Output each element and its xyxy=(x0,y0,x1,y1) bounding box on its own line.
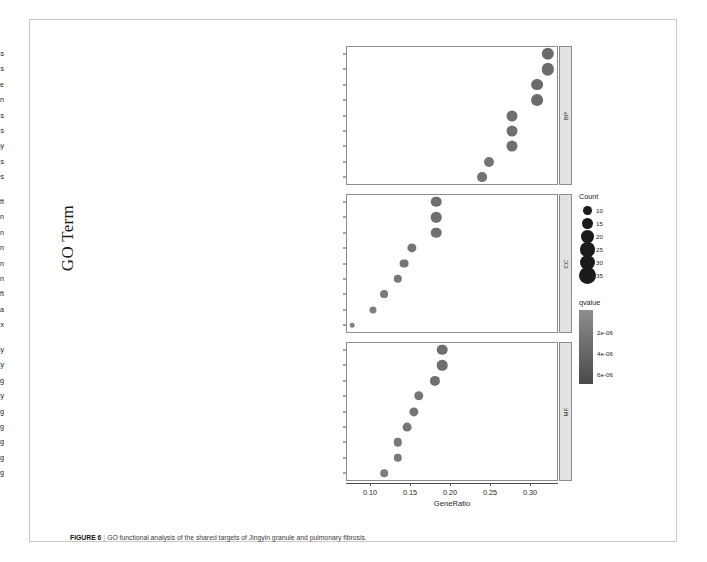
qvalue-legend-tick-label: 6e-06 xyxy=(597,371,613,378)
facet-strip-mf: MF xyxy=(559,342,572,481)
data-point xyxy=(531,79,543,91)
data-point xyxy=(350,323,355,328)
data-point xyxy=(431,227,442,238)
qvalue-gradient-labels: 2e-064e-066e-06 xyxy=(593,310,633,384)
y-axis-tick-label: cytokine receptor binding xyxy=(0,377,4,385)
y-axis-tick-label: caveola xyxy=(0,306,4,314)
y-axis-tick-label: membrane microdomain xyxy=(0,213,4,221)
y-axis-tick-label: cellular response to chemical stress xyxy=(0,50,4,58)
data-point xyxy=(484,157,494,167)
x-axis-tick-mark xyxy=(450,483,451,486)
x-axis-tick-label: 0.30 xyxy=(523,488,537,497)
x-axis-line xyxy=(346,483,558,484)
x-axis-tick-mark xyxy=(410,483,411,486)
y-axis-tick-label: secretory granule lumen xyxy=(0,275,4,283)
facet-strip-cc: CC xyxy=(559,194,572,333)
y-axis-tick-label: ubiquitin-like protein ligase binding xyxy=(0,454,4,462)
figure-frame: GO Term cellular response to chemical st… xyxy=(29,19,677,542)
y-axis-tick-label: RNA polymerase II-specific DNA-binding t… xyxy=(0,438,4,446)
data-point xyxy=(506,110,517,121)
qvalue-gradient-wrap: 2e-064e-066e-06 xyxy=(579,310,633,384)
y-axis-tick-label: signaling receptor activator activity xyxy=(0,361,4,369)
x-axis-tick-label: 0.10 xyxy=(363,488,377,497)
count-legend-title: Count xyxy=(579,192,603,201)
count-legend-label: 15 xyxy=(596,220,603,227)
y-axis-tick-label: membrane region xyxy=(0,229,4,237)
y-axis-tick-label: response to reactive oxygen species xyxy=(0,173,4,181)
data-point xyxy=(506,125,517,136)
y-axis-tick-label: regulation of reactive oxygen species me… xyxy=(0,158,4,166)
y-axis-tick-label: plasma membrane raft xyxy=(0,290,4,298)
caption-text: GO functional analysis of the shared tar… xyxy=(107,534,367,541)
x-axis-tick-label: 0.20 xyxy=(443,488,457,497)
qvalue-legend-tick-label: 4e-06 xyxy=(597,350,613,357)
caption-label: FIGURE 6 xyxy=(70,534,101,541)
count-legend-dot xyxy=(581,230,594,243)
facet-panel-mf xyxy=(346,342,558,481)
y-axis-tick-label: response to lipopolysaccharide xyxy=(0,81,4,89)
count-legend-item: 15 xyxy=(579,217,603,230)
count-legend-dot-cell xyxy=(579,230,596,243)
y-axis-tick-label: cytokine activity xyxy=(0,392,4,400)
data-point xyxy=(437,360,448,371)
data-point xyxy=(506,141,517,152)
data-point xyxy=(370,306,377,313)
count-legend-label: 35 xyxy=(596,272,603,279)
y-axis-tick-label: receptor ligand activity xyxy=(0,346,4,354)
y-axis-tick-label: response to oxidative stress xyxy=(0,65,4,73)
data-point xyxy=(431,212,442,223)
facet-strip-label: CC xyxy=(563,259,569,268)
data-point xyxy=(400,259,409,268)
y-axis-tick-label: membrane raft xyxy=(0,198,4,206)
count-legend-label: 10 xyxy=(596,207,603,214)
data-point xyxy=(531,94,543,106)
count-legend-label: 30 xyxy=(596,259,603,266)
count-legend-items: 101520253035 xyxy=(579,204,603,282)
facet-panel-cc xyxy=(346,194,558,333)
go-dotplot: GO Term cellular response to chemical st… xyxy=(30,20,678,543)
y-axis-tick-label: vesicle lumen xyxy=(0,244,4,252)
y-axis-tick-label: reactive oxygen species metabolic proces… xyxy=(0,112,4,120)
count-legend-dot-cell xyxy=(579,267,596,284)
facet-strip-label: MF xyxy=(563,407,569,416)
count-legend-dot-cell xyxy=(579,218,596,229)
figure-page: GO Term cellular response to chemical st… xyxy=(0,0,707,562)
facet-strip-label: BP xyxy=(563,111,569,119)
y-axis-labels: cellular response to chemical stressresp… xyxy=(30,20,343,543)
count-legend-item: 10 xyxy=(579,204,603,217)
y-axis-tick-label: cytoplasmic vesicle lumen xyxy=(0,260,4,268)
count-legend-dot xyxy=(583,206,592,215)
x-axis-title: GeneRatio xyxy=(346,499,558,508)
y-axis-tick-label: DNA-binding transcription factor binding xyxy=(0,408,4,416)
data-point xyxy=(431,196,442,207)
count-legend-item: 20 xyxy=(579,230,603,243)
y-axis-tick-label: RNA polymerase II transcription regulato… xyxy=(0,321,4,329)
data-point xyxy=(380,290,388,298)
y-axis-tick-label: cellular response to oxidative stress xyxy=(0,127,4,135)
y-axis-tick-label: response to molecule of bacterial origin xyxy=(0,96,4,104)
count-legend: Count 101520253035 xyxy=(579,192,603,282)
y-axis-tick-label: phosphatase binding xyxy=(0,423,4,431)
y-axis-tick-label: regulation of apoptotic signaling pathwa… xyxy=(0,142,4,150)
count-legend-item: 35 xyxy=(579,269,603,282)
x-axis-tick-mark xyxy=(530,483,531,486)
count-legend-dot xyxy=(582,218,593,229)
x-axis-tick-label: 0.25 xyxy=(483,488,497,497)
x-axis-tick-mark xyxy=(370,483,371,486)
count-legend-label: 20 xyxy=(596,233,603,240)
figure-caption: FIGURE 6|GO functional analysis of the s… xyxy=(70,533,630,543)
data-point xyxy=(381,469,389,477)
count-legend-dot xyxy=(579,267,596,284)
data-point xyxy=(477,172,487,182)
y-axis-tick-label: protein phosphatase binding xyxy=(0,469,4,477)
data-point xyxy=(402,423,411,432)
count-legend-dot-cell xyxy=(579,206,596,215)
x-axis-tick-label: 0.15 xyxy=(403,488,417,497)
qvalue-legend-tick-label: 2e-06 xyxy=(597,329,613,336)
data-point xyxy=(437,344,448,355)
qvalue-legend: qvalue 2e-064e-066e-06 xyxy=(579,298,633,384)
qvalue-legend-title: qvalue xyxy=(579,298,633,307)
qvalue-gradient-bar xyxy=(579,310,593,384)
facet-panel-bp xyxy=(346,46,558,185)
x-axis-tick-mark xyxy=(490,483,491,486)
